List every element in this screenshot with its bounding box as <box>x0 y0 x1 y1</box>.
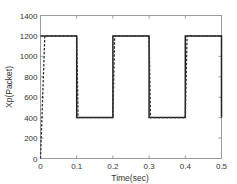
y-tick-label: 200 <box>24 134 38 143</box>
y-tick-label: 1000 <box>20 52 38 61</box>
line-chart: 0200400600800100012001400 00.10.20.30.40… <box>0 0 237 184</box>
y-tick-label: 800 <box>24 73 38 82</box>
y-tick-label: 1400 <box>20 12 38 21</box>
plot-area <box>41 16 222 159</box>
x-tick-label: 0.1 <box>71 162 83 171</box>
x-tick-label: 0 <box>38 162 43 171</box>
x-tick-label: 0.2 <box>107 162 119 171</box>
x-axis-label: Time(sec) <box>111 173 149 183</box>
y-tick-label: 600 <box>24 93 38 102</box>
x-tick-label: 0.3 <box>144 162 156 171</box>
x-tick-label: 0.5 <box>216 162 228 171</box>
x-tick-label: 0.4 <box>180 162 192 171</box>
y-tick-label: 1200 <box>20 32 38 41</box>
y-axis-label: Xp(Packet) <box>4 66 14 108</box>
y-tick-label: 400 <box>24 114 38 123</box>
